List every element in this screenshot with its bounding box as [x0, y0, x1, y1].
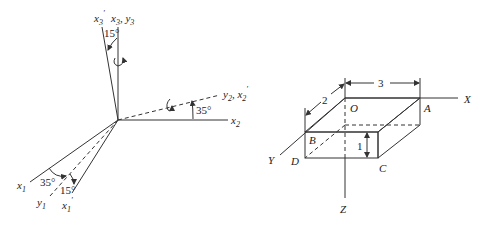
vertex-label-d: D — [290, 155, 299, 167]
angle-label-bottom-left: 35° — [40, 176, 55, 188]
angle-label-right: 35° — [196, 104, 211, 116]
box-coordinate-diagram: 3 2 1 O A B D C X Y Z — [268, 77, 472, 215]
vertex-label-c: C — [379, 162, 387, 174]
angle-label-top: 15° — [104, 27, 119, 39]
rotation-axes-diagram: x3′ x3, y3 15° y2, x2′ 35° x2 x1 35° 15°… — [16, 9, 248, 214]
axis-x3-prime — [102, 27, 118, 120]
dimension-width: 2 — [322, 94, 328, 106]
angle-arc-bottom-right — [70, 174, 74, 184]
axis-label-z: Z — [340, 203, 347, 215]
vertex-label-o: O — [350, 102, 358, 114]
angle-arc-top — [108, 38, 117, 50]
label-x3-y3: x3, y3 — [110, 12, 134, 27]
axis-label-x: X — [463, 93, 472, 105]
diagram-canvas: x3′ x3, y3 15° y2, x2′ 35° x2 x1 35° 15°… — [0, 0, 485, 227]
dim-line-2b — [331, 84, 344, 94]
label-x1-prime: x1′ — [61, 196, 73, 214]
vertex-label-a: A — [423, 102, 431, 114]
rotation-icon-horizontal — [167, 99, 172, 111]
dimension-height: 1 — [357, 140, 363, 152]
label-x2: x2 — [230, 114, 240, 129]
angle-label-bottom-right: 15° — [60, 184, 75, 196]
angle-arc-right — [192, 101, 193, 119]
label-x3-prime: x3′ — [93, 9, 105, 27]
rotation-icon-vertical — [114, 58, 123, 66]
label-x1: x1 — [16, 179, 26, 194]
box-right-face — [378, 98, 420, 158]
dim-line-2a — [306, 102, 321, 115]
axis-x1 — [30, 120, 118, 182]
label-y2-x2-prime: y2, x2′ — [222, 85, 248, 103]
axis-label-y: Y — [268, 154, 276, 166]
vertex-label-b: B — [309, 134, 316, 146]
dimension-length: 3 — [378, 77, 384, 89]
label-y1: y1 — [36, 196, 46, 211]
axis-x1-prime — [72, 120, 118, 193]
